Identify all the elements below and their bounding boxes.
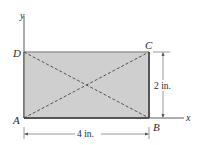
point-c-label: C	[145, 39, 153, 51]
point-a-label: A	[12, 114, 20, 126]
y-axis-label: y	[19, 10, 25, 21]
rectangle-diagram: y x D C A B 2 in. 4 in.	[0, 0, 203, 145]
point-d-label: D	[12, 47, 21, 59]
point-b-label: B	[153, 121, 160, 133]
height-dimension-label: 2 in.	[154, 81, 171, 91]
width-dimension-label: 4 in.	[77, 129, 94, 139]
x-axis-label: x	[185, 112, 191, 123]
